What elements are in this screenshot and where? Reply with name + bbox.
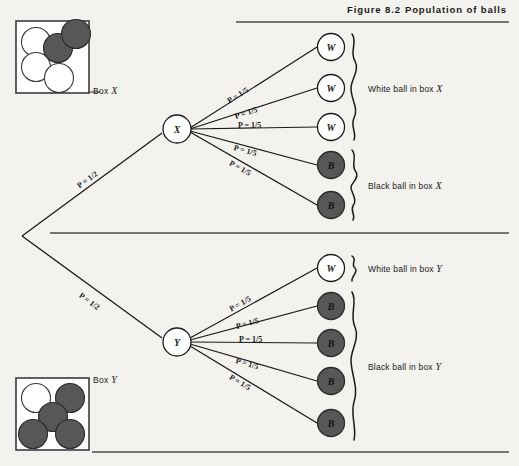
brace-white-x: [351, 34, 357, 140]
box-y-group: [16, 378, 89, 450]
prob-label-y-leaf-3: P = 1/5: [239, 335, 262, 344]
outcome-white-box-y-var: Y: [436, 263, 442, 274]
outcome-black-box-y-text: Black ball in box: [368, 362, 433, 372]
leaf-y-3-label: B: [327, 338, 335, 349]
outcome-white-box-x-var: X: [436, 83, 442, 94]
outcome-white-box-x: White ball in box X: [368, 83, 443, 94]
outcome-white-box-y-text: White ball in box: [368, 264, 434, 274]
branch-root-to-x: [22, 133, 162, 236]
outcome-black-box-x-text: Black ball in box: [368, 181, 433, 191]
box-x-label-prefix: Box: [93, 86, 109, 96]
box-x-group: [16, 20, 100, 94]
figure-canvas: X W W W B B Y W: [0, 0, 519, 466]
tree-diagram-svg: X W W W B B Y W: [0, 0, 519, 466]
outcome-white-box-y: White ball in box Y: [368, 263, 442, 274]
leaf-x-4-label: B: [327, 160, 335, 171]
outcome-black-box-y: Black ball in box Y: [368, 361, 441, 372]
brace-white-y: [352, 256, 356, 281]
lower-leaves: W B B B B: [318, 255, 345, 437]
prob-label-x-leaf-3: P = 1/5: [238, 121, 261, 130]
leaf-x-5-label: B: [327, 200, 335, 211]
lower-branches: [190, 268, 317, 423]
figure-title-text: Population of balls: [405, 4, 507, 15]
node-y-label: Y: [174, 337, 181, 348]
upper-leaves: W W W B B: [318, 34, 345, 219]
box-x-ball-black-2: [62, 20, 91, 49]
box-y-label-prefix: Box: [93, 375, 109, 385]
leaf-y-4-label: B: [327, 376, 335, 387]
leaf-x-1-label: W: [327, 42, 337, 53]
lower-branch-5: [190, 346, 317, 423]
upper-branch-5: [190, 132, 317, 205]
outcome-white-box-x-text: White ball in box: [368, 84, 434, 94]
box-y-label-var: Y: [111, 374, 117, 385]
lower-branch-1: [190, 268, 317, 338]
leaf-y-2-label: B: [327, 301, 335, 312]
box-x-label: Box X: [93, 85, 118, 96]
branch-root-to-y: [22, 236, 162, 338]
leaf-x-3-label: W: [327, 122, 337, 133]
box-x-ball-white-3: [45, 64, 74, 93]
brace-black-x: [351, 150, 357, 220]
node-x-label: X: [173, 124, 181, 135]
outcome-black-box-x-var: X: [435, 180, 441, 191]
box-x-label-var: X: [111, 85, 117, 96]
leaf-x-2-label: W: [327, 83, 337, 94]
outcome-black-box-y-var: Y: [435, 361, 441, 372]
outcome-black-box-x: Black ball in box X: [368, 180, 442, 191]
box-y-ball-black-3: [19, 420, 48, 449]
figure-number: Figure 8.2: [347, 4, 401, 15]
box-y-ball-black-4: [56, 420, 85, 449]
figure-caption: Figure 8.2Population of balls: [347, 4, 507, 15]
box-y-label: Box Y: [93, 374, 117, 385]
leaf-y-1-label: W: [327, 263, 337, 274]
brace-black-y: [351, 292, 357, 440]
upper-branch-1: [190, 47, 317, 128]
leaf-y-5-label: B: [327, 418, 335, 429]
